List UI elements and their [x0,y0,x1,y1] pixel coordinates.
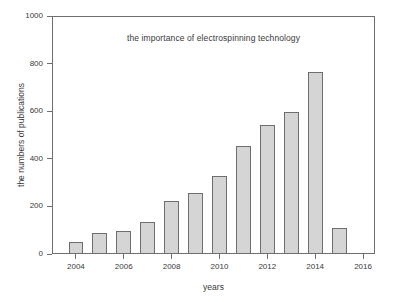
x-axis-tick-mark [267,254,268,259]
bar [332,228,347,254]
bar [69,242,84,254]
x-axis-tick-label: 2004 [56,262,96,271]
bar [236,146,251,254]
x-axis-tick-mark [363,254,364,259]
x-axis-tick-label: 2014 [295,262,335,271]
bar [212,176,227,254]
x-axis-title: years [52,282,375,292]
y-axis-tick-label: 400 [30,154,43,164]
y-axis-tick-label: 600 [30,106,43,116]
bar-series [53,17,374,254]
bar [188,193,203,254]
x-axis-tick-label: 2010 [199,262,239,271]
y-axis-tick-label: 0 [39,249,43,259]
x-axis-tick-mark [171,254,172,259]
y-axis-title: the numbers of publications [14,16,28,254]
x-axis-tick-mark [123,254,124,259]
y-axis-tick-label: 200 [30,201,43,211]
y-axis-tick-label: 800 [30,59,43,69]
x-axis-tick-mark [219,254,220,259]
bar [116,231,131,254]
x-axis-tick-label: 2008 [152,262,192,271]
x-axis-tick-mark [75,254,76,259]
x-axis-tick-label: 2006 [104,262,144,271]
bar [140,222,155,254]
x-axis-tick-label: 2016 [343,262,383,271]
x-axis-tick-mark [315,254,316,259]
bar-chart: the importance of electrospinning techno… [0,0,393,302]
bar [284,112,299,254]
bar [164,201,179,254]
bar [308,72,323,254]
bar [260,125,275,254]
bar [92,233,107,254]
x-axis-tick-label: 2012 [247,262,287,271]
